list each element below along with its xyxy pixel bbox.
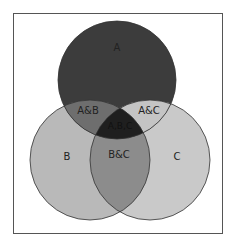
label-c: C xyxy=(174,151,181,162)
label-a-and-c: A&C xyxy=(138,105,160,116)
venn-diagram: A B C A&B A&C B&C A,B,C xyxy=(0,0,235,243)
label-b: B xyxy=(64,151,71,162)
label-a-b-c: A,B,C xyxy=(108,121,132,131)
label-b-and-c: B&C xyxy=(108,149,130,160)
label-a: A xyxy=(114,42,121,53)
label-a-and-b: A&B xyxy=(77,105,99,116)
